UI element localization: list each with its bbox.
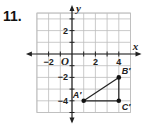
point-1 bbox=[117, 75, 122, 80]
point-0 bbox=[81, 99, 86, 104]
x-axis-label: x bbox=[132, 40, 139, 52]
x-axis-arrow-left-icon bbox=[26, 52, 32, 57]
point-label: C′ bbox=[122, 102, 131, 112]
y-tick-label: 2 bbox=[63, 26, 68, 36]
y-tick-label: −4 bbox=[58, 96, 68, 106]
y-axis-arrow-up-icon bbox=[70, 5, 75, 11]
point-2 bbox=[117, 99, 122, 104]
y-axis-arrow-down-icon bbox=[70, 118, 75, 124]
x-tick-label: −2 bbox=[43, 57, 53, 67]
x-tick-label: 2 bbox=[93, 57, 98, 67]
y-tick-label: −2 bbox=[58, 72, 68, 82]
coordinate-plane: −2242−2−4Oxy A′B′C′ bbox=[0, 0, 143, 128]
point-label: B′ bbox=[122, 66, 131, 76]
x-axis-arrow-right-icon bbox=[136, 52, 142, 57]
x-tick-label: 4 bbox=[116, 57, 121, 67]
y-axis-label: y bbox=[74, 2, 81, 14]
point-label: A′ bbox=[72, 90, 82, 100]
origin-label: O bbox=[61, 55, 69, 67]
